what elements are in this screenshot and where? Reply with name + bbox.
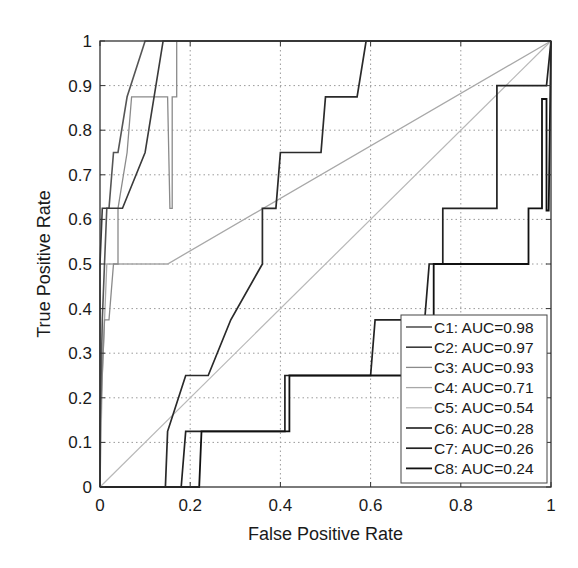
legend: C1: AUC=0.98C2: AUC=0.97C3: AUC=0.93C4: … bbox=[401, 315, 547, 483]
legend-entry: C3: AUC=0.93 bbox=[434, 359, 534, 376]
legend-entry: C8: AUC=0.24 bbox=[434, 460, 534, 477]
y-tick-label: 1 bbox=[83, 32, 92, 51]
y-tick-label: 0.1 bbox=[68, 433, 92, 452]
y-tick-label: 0.5 bbox=[68, 255, 92, 274]
legend-entry: C2: AUC=0.97 bbox=[434, 339, 534, 356]
x-tick-label: 0.4 bbox=[269, 496, 293, 515]
y-tick-label: 0.7 bbox=[68, 166, 92, 185]
legend-entry: C5: AUC=0.54 bbox=[434, 399, 534, 416]
legend-entry: C6: AUC=0.28 bbox=[434, 420, 534, 437]
x-tick-label: 0.8 bbox=[449, 496, 473, 515]
x-tick-label: 0.2 bbox=[178, 496, 202, 515]
legend-entry: C4: AUC=0.71 bbox=[434, 379, 534, 396]
y-axis-label: True Positive Rate bbox=[34, 190, 54, 337]
legend-entry: C1: AUC=0.98 bbox=[434, 319, 534, 336]
y-tick-label: 0.6 bbox=[68, 210, 92, 229]
legend-entry: C7: AUC=0.26 bbox=[434, 440, 534, 457]
x-axis-label: False Positive Rate bbox=[248, 524, 403, 544]
x-tick-label: 0.6 bbox=[359, 496, 383, 515]
y-tick-label: 0.2 bbox=[68, 389, 92, 408]
x-tick-label: 0 bbox=[95, 496, 104, 515]
roc-chart: 00.20.40.60.81 00.10.20.30.40.50.60.70.8… bbox=[0, 0, 578, 568]
x-tick-label: 1 bbox=[546, 496, 555, 515]
y-tick-label: 0.9 bbox=[68, 77, 92, 96]
y-tick-label: 0.3 bbox=[68, 344, 92, 363]
y-tick-label: 0.4 bbox=[68, 300, 92, 319]
y-tick-label: 0 bbox=[83, 478, 92, 497]
y-tick-label: 0.8 bbox=[68, 121, 92, 140]
